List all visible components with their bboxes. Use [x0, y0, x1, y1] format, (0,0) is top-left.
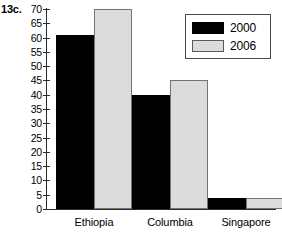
legend-label-2000: 2000 [230, 20, 256, 36]
y-tick-label-row: 70 [0, 4, 42, 14]
bar-ethiopia-2000 [56, 35, 94, 209]
y-tick-mark [43, 180, 50, 181]
y-tick-mark [43, 95, 50, 96]
y-tick-label-row: 30 [0, 118, 42, 128]
y-tick-mark [43, 138, 50, 139]
y-tick-label-row: 40 [0, 90, 42, 100]
legend-swatch-2006 [192, 40, 224, 52]
y-tick-label: 5 [22, 190, 42, 200]
y-tick-label: 20 [22, 147, 42, 157]
y-tick-label-row: 50 [0, 61, 42, 71]
y-tick-label-row: 35 [0, 104, 42, 114]
y-tick-mark [43, 80, 50, 81]
y-tick-mark [43, 123, 50, 124]
bar-columbia-2006 [170, 80, 208, 209]
y-tick-label-row: 25 [0, 133, 42, 143]
y-tick-mark [43, 109, 50, 110]
y-tick-mark [43, 23, 50, 24]
chart-legend: 20002006 [185, 14, 271, 59]
y-tick-label: 55 [22, 47, 42, 57]
y-tick-mark [43, 195, 50, 196]
y-tick-label-row: 45 [0, 75, 42, 85]
bar-columbia-2000 [132, 95, 170, 209]
y-tick-mark [43, 52, 50, 53]
y-tick-mark [43, 66, 50, 67]
bar-singapore-2000 [208, 198, 246, 209]
figure-root: 13c. 7065605550454035302520151050 Ethiop… [0, 0, 282, 246]
y-tick-label-row: 20 [0, 147, 42, 157]
x-axis-line [46, 209, 276, 210]
y-tick-mark [43, 38, 50, 39]
legend-swatch-2000 [192, 22, 224, 34]
y-tick-label: 50 [22, 61, 42, 71]
y-tick-label: 65 [22, 18, 42, 28]
y-tick-label: 40 [22, 90, 42, 100]
y-tick-label: 10 [22, 175, 42, 185]
y-tick-label-row: 10 [0, 175, 42, 185]
y-tick-label: 70 [22, 4, 42, 14]
y-tick-label: 45 [22, 75, 42, 85]
y-tick-label: 15 [22, 161, 42, 171]
y-tick-label-row: 55 [0, 47, 42, 57]
y-tick-label-row: 65 [0, 18, 42, 28]
y-tick-label: 30 [22, 118, 42, 128]
y-tick-label: 0 [22, 204, 42, 214]
bar-ethiopia-2006 [94, 9, 132, 209]
y-tick-label-row: 5 [0, 190, 42, 200]
y-tick-mark [43, 152, 50, 153]
bar-singapore-2006 [246, 198, 282, 209]
y-tick-label: 25 [22, 133, 42, 143]
y-tick-mark [43, 166, 50, 167]
legend-label-2006: 2006 [230, 38, 256, 54]
y-tick-label-row: 0 [0, 204, 42, 214]
y-tick-mark [43, 9, 50, 10]
y-tick-mark [43, 209, 50, 210]
y-tick-label-row: 60 [0, 33, 42, 43]
y-tick-label-row: 15 [0, 161, 42, 171]
x-axis-label-singapore: Singapore [201, 216, 282, 229]
y-tick-label: 35 [22, 104, 42, 114]
y-tick-label: 60 [22, 33, 42, 43]
